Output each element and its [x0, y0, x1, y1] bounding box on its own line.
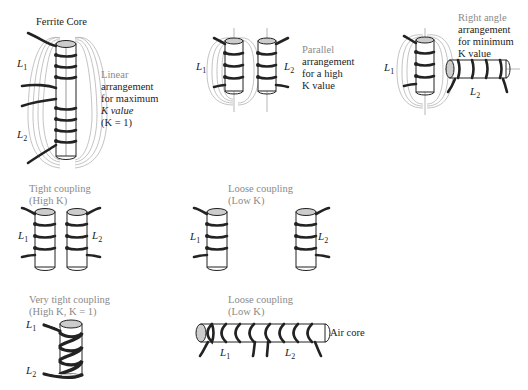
linear-arrangement-drawing: [22, 33, 107, 168]
coil-label-l2: L2: [285, 346, 295, 361]
coil-label-l1: L1: [196, 60, 206, 75]
coil-label-l2: L2: [318, 230, 328, 245]
very-tight-coupling-drawing: [44, 320, 82, 378]
coil-label-l2: L2: [470, 85, 480, 100]
loose-coupling-drawing: [194, 208, 329, 271]
tight-coupling-drawing: [22, 208, 100, 271]
very-tight-coupling-caption: Very tight coupling (High K, K = 1): [29, 294, 110, 318]
coil-label-l2: L2: [284, 60, 294, 75]
coil-label-l2: L2: [92, 229, 102, 244]
coil-label-l1: L1: [18, 229, 28, 244]
coil-label-l2: L2: [17, 128, 27, 143]
parallel-caption: Parallel arrangement for a high K value: [302, 44, 354, 92]
coil-label-l1: L1: [384, 61, 394, 76]
linear-caption: Linear arrangement for maximum K value (…: [101, 69, 158, 129]
coil-label-l1: L1: [26, 318, 36, 333]
coil-label-l1: L1: [190, 230, 200, 245]
tight-coupling-caption: Tight coupling (High K): [29, 183, 91, 207]
air-core-label: Air core: [330, 327, 365, 339]
loose-coupling-caption: Loose coupling (Low K): [228, 183, 293, 207]
air-core-coupling-drawing: [196, 324, 330, 356]
coil-label-l1: L1: [220, 346, 230, 361]
coil-label-l2: L2: [26, 364, 36, 379]
coil-label-l1: L1: [17, 57, 27, 72]
ferrite-core-label: Ferrite Core: [36, 16, 87, 28]
air-core-loose-caption: Loose coupling (Low K): [228, 294, 293, 318]
right-angle-caption: Right angle arrangement for minimum K va…: [458, 12, 514, 60]
parallel-arrangement-drawing: [207, 28, 288, 112]
